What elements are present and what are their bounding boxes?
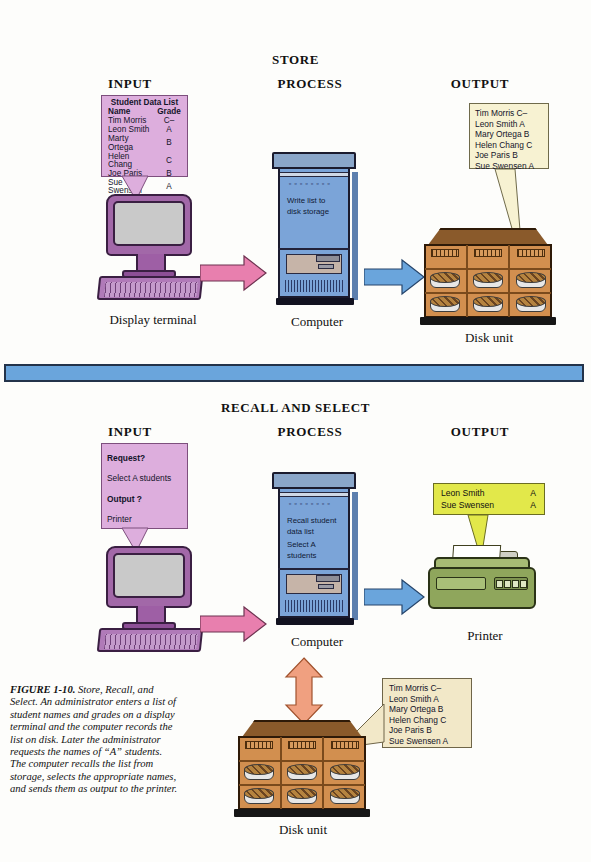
tower-base bbox=[276, 618, 354, 625]
computer-tower-recall: ▫▫▫▫▫▫▫▫ Recall student data list Select… bbox=[272, 472, 362, 630]
tower-screen-line-4: students bbox=[287, 551, 345, 562]
disk-platter bbox=[473, 296, 503, 312]
section-title-store: STORE bbox=[0, 52, 591, 68]
disk-platter bbox=[330, 788, 360, 804]
disk-divider bbox=[280, 737, 282, 809]
stored-line: Helen Chang C bbox=[389, 715, 471, 726]
tower-screen-line-1: Recall student bbox=[287, 516, 345, 527]
tower-screen-text: Write list to disk storage bbox=[287, 196, 345, 217]
section-title-recall: RECALL AND SELECT bbox=[0, 400, 591, 416]
tower-screen-line-1: Write list to bbox=[287, 196, 345, 207]
disk-grill bbox=[288, 741, 316, 749]
disk-divider bbox=[239, 784, 365, 786]
figure-caption-text: Store, Recall, and Select. An administra… bbox=[10, 684, 177, 794]
computer-tower-store: ▫▫▫▫▫▫▫▫ Write list to disk storage bbox=[272, 152, 362, 310]
disk-divider bbox=[425, 292, 551, 294]
figure-number: FIGURE 1-10. bbox=[10, 684, 75, 695]
tower-slit bbox=[280, 172, 348, 177]
printer-button[interactable] bbox=[512, 580, 519, 588]
disk-grill bbox=[517, 249, 545, 257]
disk-platter bbox=[287, 764, 317, 780]
printer-panel bbox=[436, 577, 486, 590]
tower-led-row: ▫▫▫▫▫▫▫▫ bbox=[288, 180, 332, 188]
printed-grade: A bbox=[530, 499, 536, 511]
monitor-screen bbox=[113, 553, 185, 598]
display-terminal-recall bbox=[98, 546, 208, 656]
disk-grill bbox=[431, 249, 459, 257]
store-column-input: INPUT bbox=[60, 76, 200, 92]
recall-column-output: OUTPUT bbox=[410, 424, 550, 440]
section-divider-bar bbox=[4, 364, 584, 382]
stored-line: Mary Ortega B bbox=[389, 704, 471, 715]
recall-input-callout: Request? Select A students Output ? Prin… bbox=[101, 443, 188, 529]
student-grade: B bbox=[154, 169, 184, 178]
output-line: Helen Chang C bbox=[475, 140, 548, 151]
store-output-callout: Tim Morris C– Leon Smith A Mary Ortega B… bbox=[469, 103, 549, 169]
recall-process-device-label: Computer bbox=[252, 634, 382, 650]
store-column-process: PROCESS bbox=[240, 76, 380, 92]
request-label: Request? bbox=[107, 449, 187, 468]
disk-platter bbox=[430, 272, 460, 288]
stored-line: Sue Swensen A bbox=[389, 736, 471, 747]
disk-divider bbox=[322, 737, 324, 809]
monitor-screen bbox=[113, 201, 185, 246]
tower-base bbox=[276, 298, 354, 305]
student-grade: A bbox=[154, 178, 184, 195]
disk-divider bbox=[239, 760, 365, 762]
table-row: Helen Chang C bbox=[105, 152, 184, 169]
recall-column-input: INPUT bbox=[60, 424, 200, 440]
printer-button[interactable] bbox=[496, 580, 503, 588]
tower-side-shadow bbox=[352, 492, 358, 620]
stored-line: Tim Morris C– bbox=[389, 683, 471, 694]
store-input-callout: Student Data List Name Grade Tim Morris … bbox=[101, 95, 188, 177]
tower-slit bbox=[280, 492, 348, 497]
printer-button[interactable] bbox=[504, 580, 511, 588]
output-line: Mary Ortega B bbox=[475, 129, 548, 140]
disk-platter bbox=[244, 764, 274, 780]
disk-base bbox=[420, 317, 556, 325]
arrow-computer-to-printer bbox=[364, 578, 426, 616]
printed-row: Sue Swensen A bbox=[441, 499, 536, 511]
disk-platter bbox=[516, 272, 546, 288]
printer-unit bbox=[428, 545, 540, 615]
tower-screen-text: Recall student data list Select A studen… bbox=[287, 516, 345, 561]
disk-grill bbox=[474, 249, 502, 257]
recall-output-callout: Leon Smith A Sue Swensen A bbox=[433, 483, 545, 515]
output-label: Output ? bbox=[107, 489, 187, 510]
disk-platter bbox=[473, 272, 503, 288]
tower-divider bbox=[278, 248, 350, 250]
tower-side-shadow bbox=[352, 172, 358, 300]
student-grade: C bbox=[154, 152, 184, 169]
student-grade: A bbox=[154, 126, 184, 135]
disk-unit-recall bbox=[228, 720, 378, 820]
output-line: Joe Paris B bbox=[475, 150, 548, 161]
student-name: Marty Ortega bbox=[105, 135, 154, 152]
request-value: Select A students bbox=[107, 468, 187, 489]
recall-storage-device-label: Disk unit bbox=[238, 822, 368, 838]
student-name: Helen Chang bbox=[105, 152, 154, 169]
disk-platter bbox=[430, 296, 460, 312]
store-column-output: OUTPUT bbox=[410, 76, 550, 92]
disk-platter bbox=[516, 296, 546, 312]
tower-drive-slot bbox=[316, 575, 340, 582]
recall-output-device-label: Printer bbox=[420, 628, 550, 644]
keyboard bbox=[97, 276, 204, 300]
stored-line: Leon Smith A bbox=[389, 694, 471, 705]
output-line: Leon Smith A bbox=[475, 119, 548, 130]
disk-divider bbox=[466, 245, 468, 317]
tower-top bbox=[272, 152, 356, 169]
figure-canvas: STORE INPUT PROCESS OUTPUT Student Data … bbox=[0, 0, 591, 862]
printed-name: Leon Smith bbox=[441, 487, 484, 499]
store-input-device-label: Display terminal bbox=[88, 312, 218, 328]
disk-platter bbox=[244, 788, 274, 804]
tower-top bbox=[272, 472, 356, 489]
printer-button[interactable] bbox=[520, 580, 527, 588]
disk-grill bbox=[331, 741, 359, 749]
tower-vents bbox=[285, 280, 343, 292]
tower-divider bbox=[278, 568, 350, 570]
keyboard-keys bbox=[104, 634, 198, 649]
stored-line: Joe Paris B bbox=[389, 725, 471, 736]
output-line: Tim Morris C– bbox=[475, 108, 548, 119]
tower-screen-line-2: disk storage bbox=[287, 207, 345, 218]
printer-buttons bbox=[494, 577, 528, 590]
